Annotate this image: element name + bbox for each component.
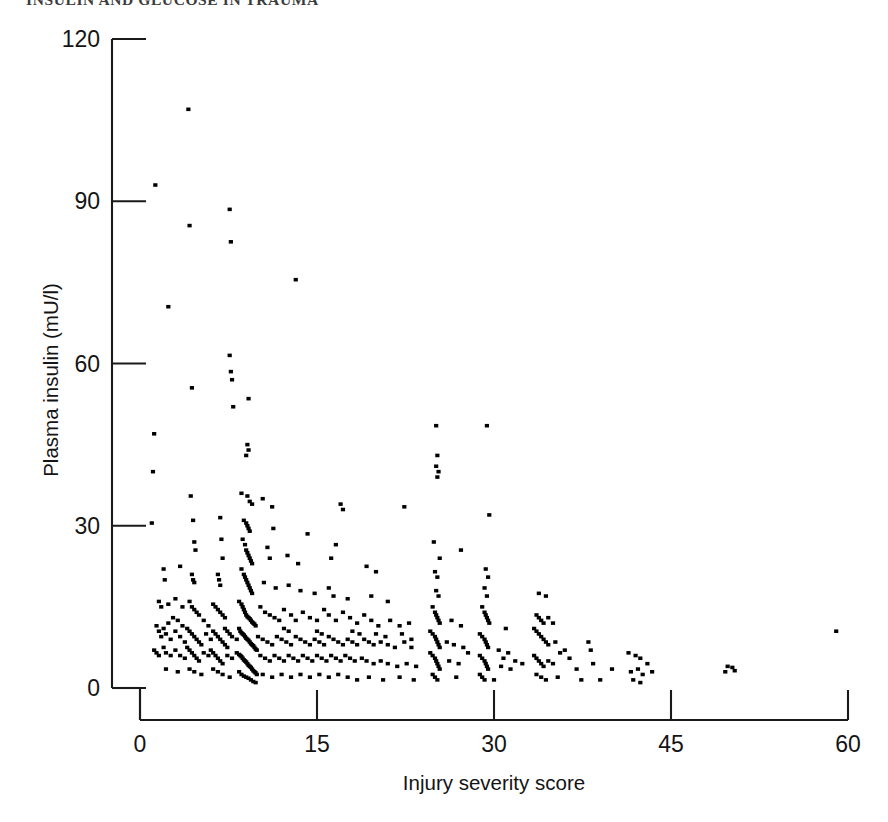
data-point	[239, 567, 243, 571]
data-point	[313, 638, 317, 642]
data-point	[271, 527, 275, 531]
data-point	[272, 616, 276, 620]
data-point	[202, 651, 206, 655]
data-point	[457, 662, 461, 666]
data-point	[634, 654, 638, 658]
data-point	[277, 656, 281, 660]
data-point	[256, 635, 260, 639]
data-point	[261, 638, 265, 642]
data-point	[263, 611, 267, 615]
data-point	[282, 608, 286, 612]
data-point	[360, 656, 364, 660]
data-point	[631, 678, 635, 682]
data-point	[486, 667, 490, 671]
data-point	[171, 616, 175, 620]
data-point	[176, 619, 180, 623]
data-point	[268, 659, 272, 663]
data-point	[272, 654, 276, 658]
data-point	[629, 670, 633, 674]
data-point	[499, 665, 503, 669]
data-point	[398, 675, 402, 679]
data-point	[261, 673, 265, 677]
data-point	[641, 673, 645, 677]
data-point	[258, 605, 262, 609]
data-point	[638, 681, 642, 685]
data-point	[567, 656, 571, 660]
data-point	[383, 635, 387, 639]
data-point	[374, 570, 378, 574]
data-point	[400, 632, 404, 636]
data-point	[289, 613, 293, 617]
data-point	[405, 662, 409, 666]
data-point	[176, 670, 180, 674]
data-point	[246, 448, 250, 452]
data-points	[150, 108, 839, 685]
data-point	[435, 475, 439, 479]
data-point	[204, 632, 208, 636]
data-point	[229, 240, 233, 244]
data-point	[230, 656, 234, 660]
data-point	[334, 543, 338, 547]
data-point	[336, 640, 340, 644]
data-point	[191, 519, 195, 523]
data-point	[296, 562, 300, 566]
data-point	[482, 586, 486, 590]
data-point	[154, 624, 158, 628]
data-point	[315, 619, 319, 623]
data-point	[320, 656, 324, 660]
data-point	[294, 278, 298, 282]
data-point	[197, 659, 201, 663]
data-point	[164, 667, 168, 671]
data-point	[280, 673, 284, 677]
data-point	[438, 667, 442, 671]
data-point	[317, 673, 321, 677]
data-point	[520, 662, 524, 666]
data-point	[733, 669, 737, 673]
data-point	[282, 627, 286, 631]
data-point	[303, 640, 307, 644]
data-point	[218, 516, 222, 520]
data-point	[164, 632, 168, 636]
data-point	[173, 648, 177, 652]
data-point	[331, 638, 335, 642]
data-point	[258, 654, 262, 658]
data-point	[248, 529, 252, 533]
data-point	[310, 659, 314, 663]
data-point	[178, 654, 182, 658]
data-point	[393, 646, 397, 650]
data-point	[534, 673, 538, 677]
data-point	[245, 494, 249, 498]
data-point	[539, 675, 543, 679]
data-point	[341, 611, 345, 615]
y-tick-label-120: 120	[62, 26, 100, 52]
data-point	[544, 594, 548, 598]
data-point	[480, 605, 484, 609]
data-point	[254, 624, 258, 628]
data-point	[329, 556, 333, 560]
data-point	[381, 678, 385, 682]
data-point	[270, 505, 274, 509]
data-point	[221, 673, 225, 677]
data-point	[398, 624, 402, 628]
data-point	[180, 624, 184, 628]
data-point	[350, 640, 354, 644]
data-point	[320, 632, 324, 636]
x-tick-label-15: 15	[304, 731, 330, 757]
data-point	[152, 432, 156, 436]
data-point	[367, 640, 371, 644]
data-point	[327, 586, 331, 590]
data-point	[388, 619, 392, 623]
data-point	[346, 675, 350, 679]
data-point	[551, 662, 555, 666]
data-point	[159, 605, 163, 609]
data-point	[575, 667, 579, 671]
data-point	[162, 567, 166, 571]
data-point	[357, 632, 361, 636]
y-tick-label-60: 60	[74, 351, 100, 377]
data-point	[289, 675, 293, 679]
data-point	[558, 651, 562, 655]
data-point	[348, 656, 352, 660]
data-point	[265, 546, 269, 550]
data-point	[346, 597, 350, 601]
data-point	[334, 619, 338, 623]
